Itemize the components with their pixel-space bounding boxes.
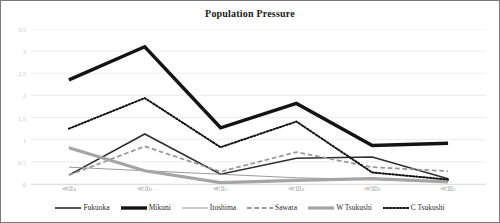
y-axis-tick-label: 3.5 bbox=[18, 26, 26, 33]
chart-legend: FukuokaMikuniItoshimaSawaraW TsukushiC T… bbox=[1, 200, 499, 216]
legend-label: Sawara bbox=[275, 204, 297, 212]
legend-swatch-icon bbox=[121, 204, 147, 212]
y-axis-tick-label: 0 bbox=[23, 181, 26, 188]
y-axis-tick-label: 2 bbox=[23, 92, 26, 99]
legend-item-c-tsukushi[interactable]: C Tsukushi bbox=[383, 204, 445, 212]
y-axis-tick-label: 3 bbox=[23, 48, 26, 55]
legend-item-fukuoka[interactable]: Fukuoka bbox=[55, 204, 109, 212]
legend-label: W Tsukushi bbox=[336, 204, 372, 212]
x-axis-tick-label: ≪Ⅲa bbox=[288, 185, 304, 193]
legend-swatch-icon bbox=[182, 204, 208, 212]
legend-swatch-icon bbox=[55, 204, 81, 212]
legend-label: C Tsukushi bbox=[411, 204, 445, 212]
legend-label: Fukuoka bbox=[83, 204, 109, 212]
series-line-mikuni bbox=[69, 47, 448, 146]
chart-container: Population Pressure 00.511.522.533.5 ≪Ⅱa… bbox=[0, 0, 500, 223]
legend-item-sawara[interactable]: Sawara bbox=[247, 204, 297, 212]
legend-item-itoshima[interactable]: Itoshima bbox=[182, 204, 236, 212]
x-axis-tick-label: ≪Ⅱa bbox=[62, 185, 76, 193]
x-axis: ≪Ⅱa≪Ⅱb≪Ⅱc≪Ⅲa≪Ⅲb≪Ⅲc bbox=[31, 185, 486, 198]
plot-area bbox=[31, 29, 486, 184]
series-line-fukuoka bbox=[69, 134, 448, 179]
legend-label: Itoshima bbox=[210, 204, 236, 212]
plot-svg bbox=[31, 29, 486, 184]
legend-swatch-icon bbox=[247, 204, 273, 212]
x-axis-tick-label: ≪Ⅱb bbox=[137, 185, 152, 193]
chart-title: Population Pressure bbox=[1, 8, 499, 19]
legend-item-w-tsukushi[interactable]: W Tsukushi bbox=[308, 204, 372, 212]
legend-item-mikuni[interactable]: Mikuni bbox=[121, 204, 171, 212]
y-axis-tick-label: 2.5 bbox=[18, 70, 26, 77]
y-axis-tick-label: 1 bbox=[23, 136, 26, 143]
series-line-sawara bbox=[69, 146, 448, 175]
legend-swatch-icon bbox=[308, 204, 334, 212]
legend-swatch-icon bbox=[383, 204, 409, 212]
y-axis-tick-label: 1.5 bbox=[18, 114, 26, 121]
x-axis-tick-label: ≪Ⅲc bbox=[440, 185, 456, 193]
y-axis-tick-label: 0.5 bbox=[18, 158, 26, 165]
legend-label: Mikuni bbox=[149, 204, 171, 212]
y-axis: 00.511.522.533.5 bbox=[1, 29, 29, 184]
x-axis-tick-label: ≪Ⅲb bbox=[364, 185, 381, 193]
x-axis-tick-label: ≪Ⅱc bbox=[213, 185, 227, 193]
